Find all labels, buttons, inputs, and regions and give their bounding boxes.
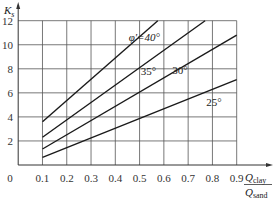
x-tick-label: 0.7 xyxy=(181,172,195,184)
series-label-40deg: φ'=40° xyxy=(129,31,161,43)
x-tick-label: 0.2 xyxy=(60,172,74,184)
x-tick-label: 0.9 xyxy=(230,172,244,184)
series-label-25deg: 25° xyxy=(206,96,221,108)
x-tick-label: 0.8 xyxy=(206,172,220,184)
x-axis-arrow-icon xyxy=(266,163,273,167)
series-label-30deg: 30° xyxy=(172,64,187,76)
y-tick-label: 10 xyxy=(2,39,14,51)
y-tick-label: 6 xyxy=(8,87,14,99)
x-tick-label: 0.6 xyxy=(157,172,171,184)
x-tick-label: 0.5 xyxy=(133,172,147,184)
y-tick-label: 2 xyxy=(8,135,14,147)
x-tick-label: 0.4 xyxy=(108,172,122,184)
x-label-numerator: Qclay xyxy=(245,171,266,185)
x-tick-label: 0.3 xyxy=(84,172,98,184)
y-tick-label: 4 xyxy=(8,111,14,123)
origin-label: 0 xyxy=(7,172,13,184)
x-label-denominator: Qsand xyxy=(245,186,268,198)
y-axis-arrow-icon xyxy=(16,2,20,9)
chart: 0.10.20.30.40.50.60.70.80.924681012 φ'=4… xyxy=(0,0,275,198)
series-label-35deg: 35° xyxy=(141,65,156,77)
x-axis-label: Qclay Qsand xyxy=(244,171,272,198)
y-tick-label: 8 xyxy=(8,63,14,75)
x-tick-label: 0.1 xyxy=(36,172,50,184)
